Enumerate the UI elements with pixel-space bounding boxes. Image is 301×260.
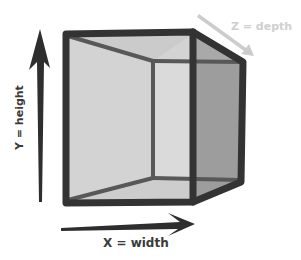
- inner-edge-top: [153, 61, 244, 62]
- cube-diagram: Z = depth Y = height: [0, 0, 301, 260]
- x-axis-label: X = width: [103, 236, 169, 250]
- x-axis-arrow: [61, 213, 195, 236]
- cube: [64, 32, 244, 203]
- back-face: [153, 61, 193, 178]
- y-axis-arrow: [29, 29, 50, 202]
- y-axis-label: Y = height: [13, 85, 26, 151]
- z-axis-label: Z = depth: [231, 20, 292, 33]
